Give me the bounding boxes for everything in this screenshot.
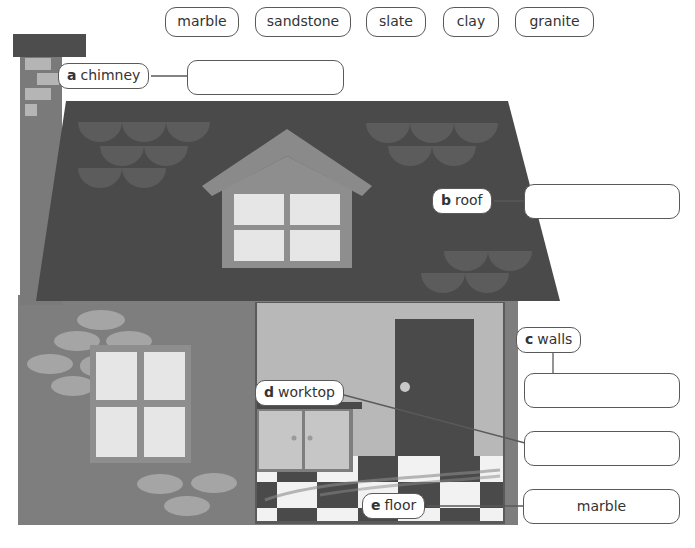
label-letter: a xyxy=(67,67,76,83)
answer-box-chimney[interactable] xyxy=(187,60,344,95)
label-walls: cwalls xyxy=(516,327,581,353)
label-letter: d xyxy=(264,384,274,400)
left-window xyxy=(90,345,191,463)
word-chip-clay[interactable]: clay xyxy=(443,7,499,37)
door-knob xyxy=(400,382,410,392)
label-text: walls xyxy=(537,331,572,347)
kitchen-cabinet xyxy=(257,402,362,472)
word-chip-sandstone[interactable]: sandstone xyxy=(255,7,351,37)
label-worktop: dworktop xyxy=(255,380,344,406)
label-chimney: achimney xyxy=(58,63,149,89)
word-chip-marble[interactable]: marble xyxy=(165,7,239,37)
interior-cutaway xyxy=(255,302,505,524)
label-floor: efloor xyxy=(362,493,425,519)
answer-box-worktop[interactable] xyxy=(524,431,680,466)
answer-box-walls[interactable] xyxy=(524,373,680,408)
label-text: worktop xyxy=(278,384,335,400)
label-letter: e xyxy=(371,497,381,513)
label-text: floor xyxy=(385,497,417,513)
label-letter: b xyxy=(441,192,451,208)
word-chip-granite[interactable]: granite xyxy=(515,7,594,37)
label-text: chimney xyxy=(80,67,140,83)
label-roof: broof xyxy=(432,188,492,214)
label-text: roof xyxy=(455,192,483,208)
label-letter: c xyxy=(525,331,533,347)
word-chip-slate[interactable]: slate xyxy=(366,7,426,37)
answer-box-floor[interactable]: marble xyxy=(523,489,680,524)
answer-box-roof[interactable] xyxy=(524,184,680,219)
